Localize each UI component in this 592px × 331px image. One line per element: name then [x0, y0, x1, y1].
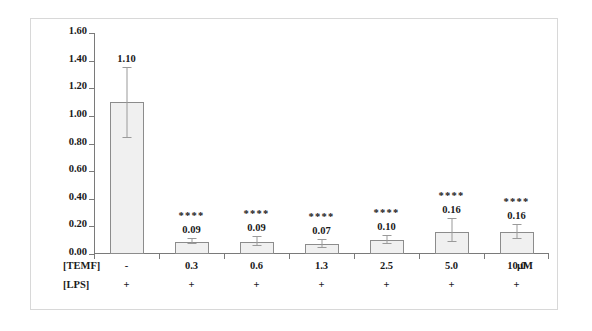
error-bar-cap-upper: [187, 238, 196, 239]
significance-label: ****: [439, 190, 465, 201]
error-bar-cap-lower: [447, 241, 456, 242]
condition-cell: 5.0: [445, 260, 458, 271]
condition-cell: +: [189, 279, 195, 290]
significance-label: ****: [374, 207, 400, 218]
significance-label: ****: [179, 210, 205, 221]
condition-row-label: [TEMF]: [63, 260, 123, 271]
y-axis-tick-label: 0.60: [69, 163, 87, 174]
x-axis-tick: [484, 254, 485, 259]
error-bar-cap-upper: [122, 67, 131, 68]
x-axis-tick: [289, 254, 290, 259]
condition-cell: +: [319, 279, 325, 290]
y-axis-tick-label: 0.80: [69, 136, 87, 147]
condition-row: [LPS]+++++++: [31, 279, 559, 296]
error-bar: [451, 219, 452, 241]
condition-cell: +: [254, 279, 260, 290]
y-axis-tick-label: 0.40: [69, 191, 87, 202]
bar-group: 0.16****: [419, 33, 484, 254]
bar-group: 0.09****: [224, 33, 289, 254]
error-bar: [126, 68, 127, 138]
condition-cell: +: [449, 279, 455, 290]
x-axis-tick: [548, 254, 549, 259]
error-bar-cap-lower: [187, 243, 196, 244]
error-bar-cap-upper: [252, 236, 261, 237]
significance-label: ****: [504, 196, 530, 207]
bar-value-label: 0.16: [442, 204, 460, 215]
bar-value-label: 1.10: [117, 53, 135, 64]
condition-row-label: [LPS]: [63, 279, 123, 290]
condition-row: [TEMF]-0.30.61.32.55.010.0µM: [31, 260, 559, 277]
error-bar-cap-upper: [447, 218, 456, 219]
condition-table: [TEMF]-0.30.61.32.55.010.0µM[LPS]+++++++: [31, 260, 559, 306]
error-bar-cap-lower: [512, 238, 521, 239]
condition-cell: 0.6: [250, 260, 263, 271]
y-axis-tick-label: 1.60: [69, 25, 87, 36]
chart-panel: NFκB mRNA EXPRESSION 0.000.200.400.600.8…: [30, 18, 558, 310]
bar-value-label: 0.10: [377, 221, 395, 232]
bar-group: 0.07****: [289, 33, 354, 254]
figure-bar-chart: NFκB mRNA EXPRESSION 0.000.200.400.600.8…: [0, 0, 592, 331]
condition-cell: 2.5: [380, 260, 393, 271]
bar-value-label: 0.07: [312, 225, 330, 236]
bar-group: 1.10: [94, 33, 159, 254]
significance-label: ****: [309, 211, 335, 222]
y-axis-tick-label: 0.20: [69, 218, 87, 229]
error-bar-cap-upper: [317, 239, 326, 240]
bar-group: 0.16****: [484, 33, 549, 254]
error-bar: [516, 225, 517, 239]
condition-cell: 1.3: [315, 260, 328, 271]
condition-cell: 0.3: [185, 260, 198, 271]
error-bar-cap-lower: [317, 247, 326, 248]
condition-cell: +: [384, 279, 390, 290]
condition-cell: -: [125, 260, 129, 271]
bar-value-label: 0.16: [507, 210, 525, 221]
plot-area: 0.000.200.400.600.801.001.201.401.60 1.1…: [94, 33, 549, 254]
bar-group: 0.09****: [159, 33, 224, 254]
error-bar-cap-lower: [382, 243, 391, 244]
error-bar-cap-lower: [252, 245, 261, 246]
bar-group: 0.10****: [354, 33, 419, 254]
x-axis-tick: [94, 254, 95, 259]
error-bar-cap-upper: [512, 224, 521, 225]
x-axis-tick: [224, 254, 225, 259]
y-axis-tick-label: 1.20: [69, 80, 87, 91]
condition-cell: +: [124, 279, 130, 290]
y-axis-tick-label: 0.00: [69, 246, 87, 257]
unit-label: µM: [517, 260, 533, 271]
error-bar-cap-upper: [382, 235, 391, 236]
significance-label: ****: [244, 208, 270, 219]
bar-value-label: 0.09: [182, 224, 200, 235]
y-axis-tick-label: 1.40: [69, 53, 87, 64]
error-bar-cap-lower: [122, 137, 131, 138]
x-axis-tick: [354, 254, 355, 259]
condition-cell: +: [514, 279, 520, 290]
x-axis-tick: [159, 254, 160, 259]
x-axis-tick: [419, 254, 420, 259]
bar-value-label: 0.09: [247, 222, 265, 233]
y-axis-tick-label: 1.00: [69, 108, 87, 119]
